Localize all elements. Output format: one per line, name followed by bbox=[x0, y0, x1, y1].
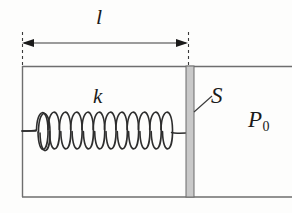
pressure-subscript: 0 bbox=[263, 119, 270, 134]
spring-helix bbox=[37, 112, 173, 150]
arrowhead-right-icon bbox=[176, 39, 188, 47]
piston[interactable] bbox=[186, 66, 194, 197]
length-dimension-arrow bbox=[22, 39, 188, 47]
physics-diagram-figure: l k S P0 bbox=[0, 0, 292, 213]
spring bbox=[22, 111, 186, 152]
pressure-symbol: P bbox=[248, 107, 262, 132]
arrowhead-left-icon bbox=[22, 39, 34, 47]
length-label: l bbox=[96, 6, 102, 28]
piston-area-label: S bbox=[211, 84, 223, 107]
piston-leader-line bbox=[194, 96, 212, 112]
outside-pressure-label: P0 bbox=[248, 108, 270, 134]
spring-right-stub bbox=[172, 133, 187, 134]
spring-left-entry bbox=[22, 130, 37, 131]
spring-constant-label: k bbox=[93, 86, 102, 107]
